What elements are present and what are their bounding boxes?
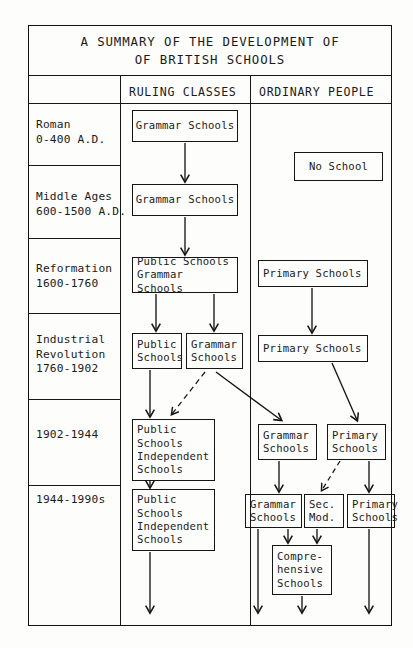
rule-era-middle-bottom [28, 238, 120, 239]
rule-era-indust-bottom [28, 399, 120, 400]
era-label-industrial: Industrial Revolution 1760-1902 [36, 333, 105, 377]
era-label-1944: 1944-1990s [36, 493, 105, 508]
era-label-roman: Roman 0-400 A.D. [36, 118, 105, 147]
box-ordinary-1944-sec-mod[interactable]: Sec. Mod. [304, 494, 344, 528]
column-header-ordinary-people: ORDINARY PEOPLE [259, 85, 374, 99]
divider-ruling-ordinary [250, 75, 251, 626]
diagram-sheet: A SUMMARY OF THE DEVELOPMENT OF OF BRITI… [0, 0, 413, 648]
box-ordinary-roman-no-school[interactable]: No School [294, 152, 383, 181]
era-label-middle: Middle Ages 600-1500 A.D. [36, 190, 126, 219]
rule-era-reform-bottom [28, 313, 120, 314]
column-header-ruling-classes: RULING CLASSES [129, 85, 237, 99]
box-ordinary-industrial-primary-schools[interactable]: Primary Schools [258, 335, 368, 362]
box-ordinary-1944-primary-schools[interactable]: Primary Schools [347, 494, 395, 528]
box-ruling-roman-grammar-schools[interactable]: Grammar Schools [132, 110, 238, 142]
box-ruling-middle-grammar-schools[interactable]: Grammar Schools [132, 184, 238, 216]
box-ordinary-1902-primary-schools[interactable]: Primary Schools [327, 424, 386, 460]
page-title: A SUMMARY OF THE DEVELOPMENT OF OF BRITI… [28, 33, 392, 69]
box-ordinary-reformation-primary-schools[interactable]: Primary Schools [258, 260, 368, 287]
box-ruling-1944-public-independent[interactable]: Public Schools Independent Schools [132, 489, 215, 551]
box-ruling-reformation-public-grammar[interactable]: Public Schools Grammar Schools [132, 257, 238, 293]
rule-era-roman-bottom [28, 165, 120, 166]
box-ordinary-1944-comprehensive-schools[interactable]: Compre- hensive Schools [272, 545, 332, 595]
box-ordinary-1944-grammar-schools[interactable]: Grammar Schools [245, 494, 302, 528]
box-ruling-1902-public-independent[interactable]: Public Schools Independent Schools [132, 419, 215, 481]
box-ruling-industrial-grammar-schools[interactable]: Grammar Schools [186, 333, 243, 369]
era-label-reformation: Reformation 1600-1760 [36, 262, 112, 291]
era-label-1902: 1902-1944 [36, 428, 98, 443]
rule-era-1902-bottom [28, 485, 120, 486]
rule-under-colheaders [28, 103, 392, 104]
divider-era-ruling [120, 75, 121, 626]
box-ordinary-1902-grammar-schools[interactable]: Grammar Schools [258, 424, 317, 460]
rule-under-title [28, 75, 392, 76]
box-ruling-industrial-public-schools[interactable]: Public Schools [132, 333, 182, 369]
